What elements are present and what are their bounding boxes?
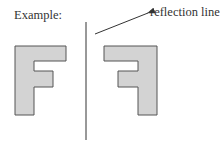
reflection-diagram <box>0 0 221 145</box>
arrow-icon <box>95 13 148 34</box>
original-letter-f <box>15 46 66 115</box>
reflected-letter-f <box>104 46 157 115</box>
